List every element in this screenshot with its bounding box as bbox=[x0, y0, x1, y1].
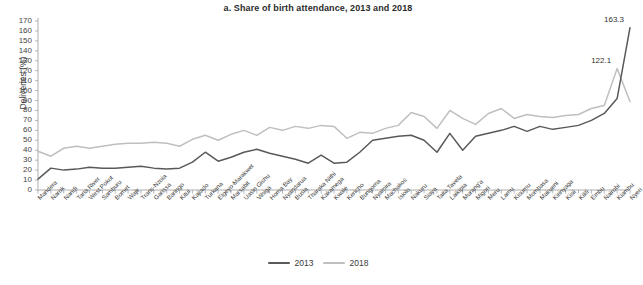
legend-label: 2013 bbox=[295, 258, 314, 268]
chart-legend: 20132018 bbox=[0, 258, 636, 268]
legend-swatch-icon bbox=[323, 262, 345, 264]
x-tick-label: Kilifi bbox=[577, 188, 590, 201]
legend-item-2013[interactable]: 2013 bbox=[268, 258, 314, 268]
x-tick-label: Lamu bbox=[499, 185, 515, 201]
legend-swatch-icon bbox=[268, 262, 290, 264]
legend-item-2018[interactable]: 2018 bbox=[323, 258, 369, 268]
legend-label: 2018 bbox=[350, 258, 369, 268]
data-label: 163.3 bbox=[604, 15, 624, 24]
data-label: 122.1 bbox=[591, 56, 611, 65]
